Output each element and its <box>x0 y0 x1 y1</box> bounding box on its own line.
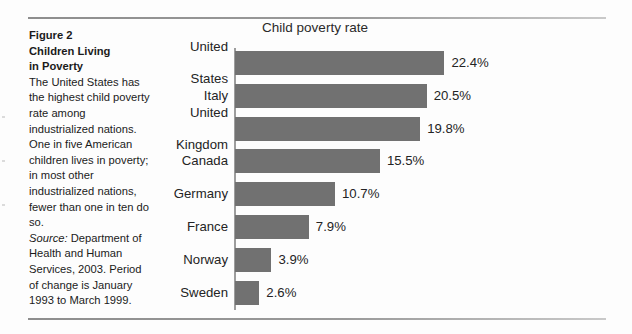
bar-value-label: 7.9% <box>316 211 346 243</box>
bar <box>235 215 309 239</box>
plot-area: United States22.4%Italy20.5%United Kingd… <box>150 41 606 315</box>
bar-row: United Kingdom19.8% <box>150 113 606 145</box>
bar <box>235 182 335 206</box>
bottom-divider-rule <box>28 318 606 320</box>
figure-caption: Figure 2 Children Living in Poverty The … <box>29 28 153 309</box>
bar <box>235 149 380 173</box>
bar-value-label: 22.4% <box>451 47 488 79</box>
figure-title-line-2: in Poverty <box>29 59 153 75</box>
figure-source-label: Source: <box>29 232 68 244</box>
bar-category-label: Canada <box>150 145 228 177</box>
bar <box>235 51 444 75</box>
bar-value-label: 10.7% <box>342 178 379 210</box>
bar <box>235 84 427 108</box>
figure-page: Figure 2 Children Living in Poverty The … <box>0 0 632 334</box>
scan-artifact <box>2 116 5 118</box>
bar-row: Norway3.9% <box>150 244 606 276</box>
bar <box>235 117 420 141</box>
bar-row: Sweden2.6% <box>150 277 606 309</box>
figure-body-text: The United States has the highest child … <box>29 75 153 231</box>
bar <box>235 281 259 305</box>
bar-row: France7.9% <box>150 211 606 243</box>
bar-value-label: 20.5% <box>434 80 471 112</box>
bar <box>235 248 271 272</box>
bar-category-label: France <box>150 211 228 243</box>
top-divider-rule <box>28 17 606 19</box>
bar-chart: Child poverty rate United States22.4%Ita… <box>150 20 606 315</box>
figure-title-line-1: Children Living <box>29 44 153 60</box>
bar-row: Canada15.5% <box>150 145 606 177</box>
scan-artifact <box>2 160 5 162</box>
bar-category-label: Germany <box>150 178 228 210</box>
bar-value-label: 19.8% <box>427 113 464 145</box>
scan-artifact <box>2 204 5 206</box>
bar-value-label: 2.6% <box>266 277 296 309</box>
bar-category-label: Sweden <box>150 277 228 309</box>
bar-row: Germany10.7% <box>150 178 606 210</box>
figure-number: Figure 2 <box>29 28 153 44</box>
bar-category-label: Norway <box>150 244 228 276</box>
bar-value-label: 15.5% <box>387 145 424 177</box>
bar-row: United States22.4% <box>150 47 606 79</box>
bar-value-label: 3.9% <box>278 244 308 276</box>
